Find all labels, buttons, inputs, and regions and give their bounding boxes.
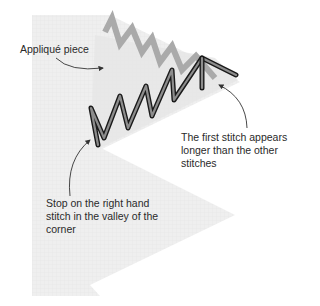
first-stitch-leader-arrow bbox=[219, 85, 247, 128]
stop-line-2: stitch in the valley of the bbox=[46, 210, 158, 223]
stop-line-1: Stop on the right hand bbox=[46, 197, 158, 210]
stop-label: Stop on the right hand stitch in the val… bbox=[46, 197, 158, 236]
applique-label-text: Appliqué piece bbox=[20, 43, 89, 55]
first-stitch-label: The first stitch appears longer than the… bbox=[181, 131, 287, 170]
first-stitch-line-1: The first stitch appears bbox=[181, 131, 287, 144]
applique-label: Appliqué piece bbox=[20, 43, 89, 56]
first-stitch-line-3: stitches bbox=[181, 157, 287, 170]
stop-line-3: corner bbox=[46, 223, 158, 236]
first-stitch-line-2: longer than the other bbox=[181, 144, 287, 157]
